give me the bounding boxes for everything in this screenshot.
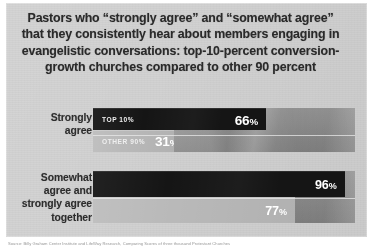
bar-top10-somewhat-and-strongly-agree: 96% (93, 171, 345, 197)
chart-title-line: Pastors who “strongly agree” and “somewh… (12, 10, 349, 26)
category-label-somewhat-and-strongly-agree: Somewhat agree and strongly agree togeth… (0, 171, 92, 224)
bar-group-strongly-agree: Strongly agree TOP 10% 66% OTHER 90% 31% (6, 102, 367, 154)
bar-group-somewhat-and-strongly-agree: Somewhat agree and strongly agree togeth… (6, 169, 367, 227)
category-label-line: Strongly (0, 111, 92, 124)
value-label-top10-somewhat-and-strongly-agree: 96% (315, 178, 336, 192)
bar-top10-strongly-agree: TOP 10% 66% (93, 108, 266, 130)
category-label-strongly-agree: Strongly agree (0, 111, 92, 137)
chart-title-line: that they consistently hear about member… (12, 26, 349, 42)
figure-canvas: Pastors who “strongly agree” and “somewh… (0, 0, 373, 250)
bar-other90-strongly-agree: OTHER 90% 31% (93, 130, 174, 152)
category-label-line: agree and (0, 184, 92, 197)
source-note: Source: Billy Graham Center Institute an… (8, 241, 368, 246)
bar-track: TOP 10% 66% OTHER 90% 31% (93, 108, 355, 152)
value-label-other90-somewhat-and-strongly-agree: 77% (265, 204, 286, 218)
chart-title-line: evangelistic conversations: top-10-perce… (12, 43, 349, 59)
bar-other90-somewhat-and-strongly-agree: 77% (93, 197, 295, 223)
series-tag-other90: OTHER 90% (102, 138, 145, 145)
value-label-top10-strongly-agree: 66% (235, 113, 258, 128)
value-label-other90-strongly-agree: 31% (155, 134, 174, 149)
series-tag-top10: TOP 10% (102, 116, 134, 123)
bar-chart-plot: Strongly agree TOP 10% 66% OTHER 90% 31% (6, 96, 367, 232)
bar-track: 96% 77% (93, 171, 355, 223)
category-label-line: strongly agree (0, 197, 92, 210)
category-label-line: agree (0, 124, 92, 137)
category-label-line: Somewhat (0, 171, 92, 184)
chart-title-line: growth churches compared to other 90 per… (12, 59, 349, 75)
category-label-line: together (0, 211, 92, 224)
chart-title: Pastors who “strongly agree” and “somewh… (12, 10, 349, 75)
